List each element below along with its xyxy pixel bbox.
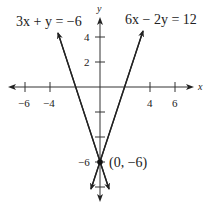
equation-label-2: 6x − 2y = 12 [125,12,197,27]
y-tick-label: −6 [78,156,90,168]
x-tick-label: 6 [172,97,178,109]
coordinate-graph: x −6 −4 4 6 y 4 2 −6 3x + y = −6 6x − 2y… [0,0,206,206]
y-axis: y 4 2 −6 [78,3,105,202]
y-axis-label: y [96,3,102,14]
y-tick-label: 2 [84,56,90,68]
x-tick-label: 4 [147,97,153,109]
y-tick-label: 4 [84,31,90,43]
intersection-label: (0, −6) [109,155,148,171]
intersection-point: (0, −6) [97,155,147,171]
x-axis-label: x [197,81,203,92]
x-axis: x −6 −4 4 6 [8,81,203,109]
line-3x-plus-y: 3x + y = −6 [16,14,109,189]
x-tick-label: −4 [43,97,55,109]
x-tick-label: −6 [18,97,30,109]
point-dot-icon [97,159,103,165]
equation-label-1: 3x + y = −6 [16,14,82,29]
